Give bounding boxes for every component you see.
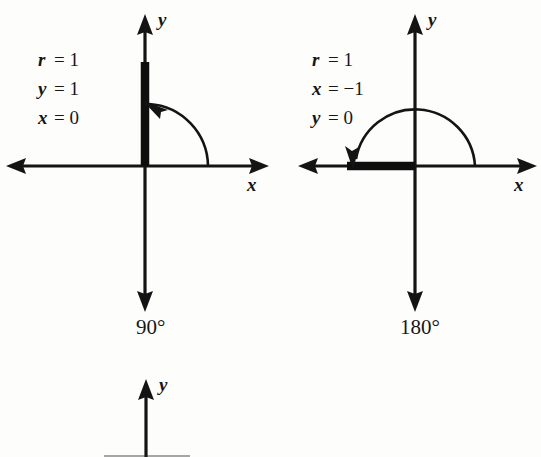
panel-180-y-axis-bottom-arrowhead <box>407 291 423 312</box>
panel-180-angle-caption: 180° <box>400 315 440 339</box>
panel-180-annotation-0-eq: = 1 <box>328 49 353 70</box>
panel-180-x-axis-left-arrowhead <box>298 158 318 174</box>
panel-180-annotation-2-var: y <box>310 107 321 128</box>
panel-90: r = 1 y = 1 x = 0 y x 90° <box>6 9 269 339</box>
panel-180-annotation-0-var: r <box>312 49 320 70</box>
panel-180-annotation-2-eq: = 0 <box>328 107 353 128</box>
panel-180-annotation-1-var: x <box>311 78 322 99</box>
panel-180-x-axis-label: x <box>513 174 524 195</box>
panel-90-y-axis-label: y <box>156 9 167 30</box>
panel-90-annotation-2-var: x <box>37 107 48 128</box>
panel-90-angle-caption: 90° <box>136 315 165 339</box>
panel-90-x-axis-label: x <box>246 174 257 195</box>
trig-angle-figure: r = 1 y = 1 x = 0 y x 90° <box>0 0 541 457</box>
panel-90-annotation-1-var: y <box>36 78 47 99</box>
figure-canvas: r = 1 y = 1 x = 0 y x 90° <box>0 0 541 457</box>
panel-partial-bottom: y <box>104 374 190 457</box>
panel-90-annotation-1-eq: = 1 <box>54 78 79 99</box>
panel-partial-y-axis-label: y <box>157 374 168 395</box>
panel-180-x-axis-right-arrowhead <box>517 158 537 174</box>
panel-90-y-axis-bottom-arrowhead <box>137 291 153 312</box>
panel-180-y-axis-top-arrowhead <box>407 14 423 35</box>
panel-90-x-axis-right-arrowhead <box>249 158 269 174</box>
panel-90-annotation-2-eq: = 0 <box>54 107 79 128</box>
panel-90-annotation-0-eq: = 1 <box>54 49 79 70</box>
panel-90-y-axis-top-arrowhead <box>137 14 153 35</box>
panel-180-annotation-1-eq: = −1 <box>328 78 364 99</box>
panel-180-y-axis-label: y <box>426 9 437 30</box>
panel-partial-y-axis-top-arrowhead <box>138 379 154 400</box>
panel-90-annotation-0-var: r <box>38 49 46 70</box>
panel-180: r = 1 x = −1 y = 0 y x 180° <box>298 9 537 339</box>
panel-90-x-axis-left-arrowhead <box>6 158 26 174</box>
